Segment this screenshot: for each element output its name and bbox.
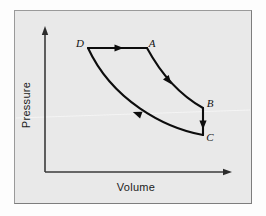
segment-d-to-a-direction-arrow-icon — [115, 44, 124, 51]
volume-axis-arrowhead — [223, 169, 232, 175]
vertex-label-b: B — [207, 97, 214, 109]
vertex-label-d: D — [75, 37, 84, 49]
plot-canvas: DABC Volume Pressure — [0, 0, 266, 216]
pressure-axis-arrowhead — [42, 26, 48, 35]
volume-axis-label: Volume — [117, 181, 156, 193]
vertex-label-group: DABC — [75, 37, 214, 143]
vertex-label-c: C — [206, 131, 214, 143]
volume-axis — [45, 169, 232, 175]
pressure-axis-label: Pressure — [20, 82, 32, 128]
segment-c-to-d — [88, 48, 203, 135]
segment-a-to-b — [147, 48, 203, 108]
pressure-axis — [42, 26, 48, 172]
segment-b-to-c-direction-arrow-icon — [199, 121, 206, 130]
cycle-path-group — [88, 44, 207, 135]
scan-artifact-line — [16, 110, 250, 118]
vertex-label-a: A — [148, 37, 156, 49]
pv-diagram-figure: DABC Volume Pressure — [0, 0, 266, 216]
